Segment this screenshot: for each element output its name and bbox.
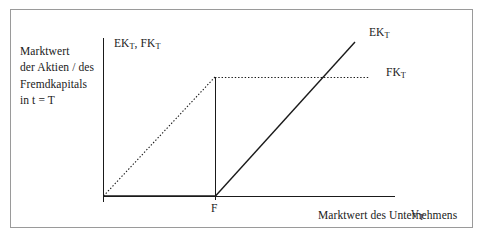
- fk-series-label-subscript: T: [401, 71, 406, 80]
- ordinate-axis-caption: EKT, FKT: [102, 21, 161, 66]
- ek-series-label-text: EK: [369, 26, 385, 38]
- fk-series-label-text: FK: [386, 66, 401, 78]
- abscissa-axis-caption: Marktwert des Unternehmens: [318, 208, 457, 223]
- ordinate-caption-fk-subscript: T: [155, 42, 160, 51]
- ek-series-label: EKT: [357, 10, 390, 55]
- abscissa-tick-label-f: F: [211, 201, 218, 216]
- ordinate-caption-ek-subscript: T: [129, 42, 134, 51]
- ordinate-caption-ek: EK: [114, 37, 130, 49]
- fk-series-label: FKT: [374, 50, 406, 95]
- ek-series-label-subscript: T: [384, 31, 389, 40]
- figure-root: EKT, FKT Marktwert der Aktien / des Frem…: [0, 0, 486, 246]
- ordinate-caption-fk: , FK: [135, 37, 156, 49]
- ordinate-axis-description: Marktwert der Aktien / des Fremdkapitals…: [20, 43, 94, 108]
